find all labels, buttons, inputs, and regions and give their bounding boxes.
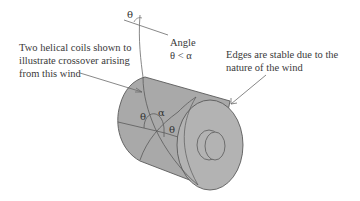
theta-top-symbol: θ (127, 9, 133, 20)
angle-note: Angle θ < α (170, 36, 196, 62)
edges-note: Edges are stable due to the nature of th… (226, 48, 338, 74)
theta-left-symbol: θ (140, 111, 146, 122)
coils-note-line-1: Two helical coils shown to (19, 41, 131, 54)
angle-reference-line (124, 20, 168, 35)
edges-leader-line (231, 75, 266, 104)
edges-note-line-2: nature of the wind (226, 61, 338, 74)
coils-note-line-3: from this wind (19, 67, 131, 80)
wound-package-diagram (0, 0, 360, 201)
coils-note-line-2: illustrate crossover arising (19, 54, 131, 67)
edges-note-line-1: Edges are stable due to the (226, 48, 338, 61)
vertical-reference-line (139, 15, 143, 77)
angle-note-line-1: Angle (170, 36, 196, 49)
coils-note: Two helical coils shown to illustrate cr… (19, 41, 131, 80)
theta-top-arc (134, 18, 142, 22)
theta-right-symbol: θ (169, 124, 175, 135)
angle-note-line-2: θ < α (170, 49, 196, 62)
hub-inner (205, 132, 225, 160)
alpha-symbol: α (158, 107, 165, 118)
